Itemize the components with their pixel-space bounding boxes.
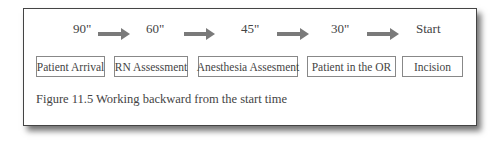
time-label-start: Start [416, 21, 441, 37]
arrow-right-icon [184, 28, 215, 40]
step-incision: Incision [402, 56, 463, 77]
arrow-right-icon [98, 28, 130, 40]
step-patient-in-or: Patient in the OR [307, 56, 396, 77]
step-patient-arrival: Patient Arrival [36, 56, 105, 77]
time-label-45: 45" [241, 21, 259, 37]
arrow-right-icon [277, 28, 309, 40]
time-label-90: 90" [73, 21, 91, 37]
time-label-60: 60" [146, 21, 164, 37]
arrow-right-icon [367, 28, 399, 40]
figure-frame: 90" 60" 45" 30" Start Patient Arrival RN… [23, 8, 477, 126]
figure-caption: Figure 11.5 Working backward from the st… [36, 92, 287, 107]
time-label-30: 30" [331, 21, 349, 37]
step-rn-assessment: RN Assessment [114, 56, 188, 77]
step-anesthesia-assessment: Anesthesia Assesment [198, 56, 298, 77]
